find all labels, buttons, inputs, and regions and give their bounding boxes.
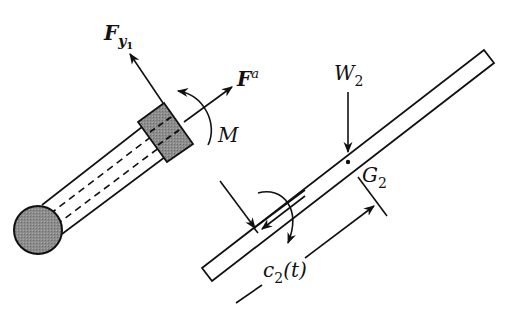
- moment-label: M: [217, 123, 239, 147]
- telescoping-arm: [42, 127, 168, 234]
- force-a-arrow: [184, 87, 232, 122]
- force-y1-label: Fy1: [103, 21, 133, 51]
- force-a-label: Fa: [236, 66, 259, 91]
- free-body-diagram: Fy1 Fa M W2 G2 c2(t): [0, 0, 516, 313]
- center-of-gravity-dot: [346, 160, 350, 164]
- distance-label: c2(t): [263, 258, 307, 286]
- force-y1-arrow: [130, 54, 163, 103]
- sphere: [14, 206, 62, 254]
- reaction-force-arrow: [220, 181, 255, 228]
- weight-label: W2: [334, 61, 363, 89]
- collar: [138, 103, 193, 162]
